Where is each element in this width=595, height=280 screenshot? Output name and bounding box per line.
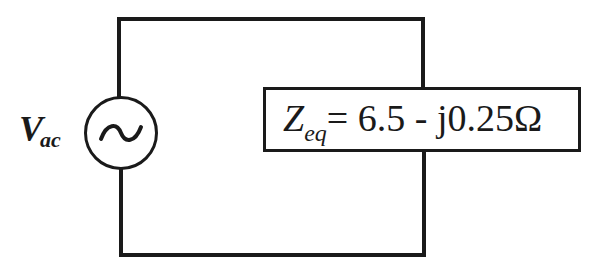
left-wire-upper [117, 17, 121, 98]
impedance-box: Zeq= 6.5 - j0.25Ω [263, 87, 581, 152]
circuit-diagram: Vac Zeq= 6.5 - j0.25Ω [0, 0, 595, 280]
impedance-symbol: Z [283, 97, 304, 139]
sine-wave-icon [87, 99, 155, 167]
impedance-value: = 6.5 - j0.25Ω [327, 97, 542, 139]
top-wire [117, 17, 425, 21]
impedance-label: Zeq= 6.5 - j0.25Ω [283, 96, 542, 145]
ac-source-symbol [84, 96, 158, 170]
impedance-subscript: eq [304, 120, 327, 146]
source-label: Vac [19, 108, 61, 150]
right-wire-lower [422, 149, 426, 257]
source-label-subscript: ac [40, 127, 61, 152]
right-wire-upper [421, 17, 425, 89]
bottom-wire [119, 253, 426, 257]
left-wire-lower [119, 166, 123, 257]
